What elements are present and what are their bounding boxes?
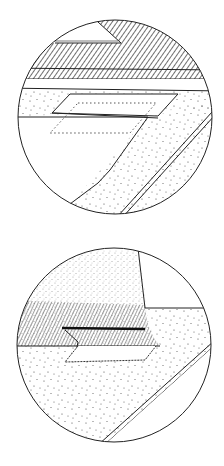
detail-bottom-circle <box>0 248 224 447</box>
illustration <box>0 0 224 466</box>
detail-top-circle <box>0 0 224 220</box>
